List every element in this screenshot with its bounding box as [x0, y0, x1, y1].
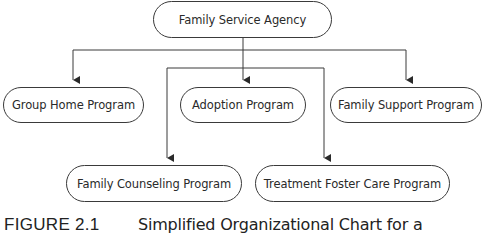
figure-label: FIGURE 2.1 [4, 215, 100, 235]
node-label: Family Support Program [338, 98, 474, 112]
node-label: Family Service Agency [179, 13, 306, 27]
node-label: Family Counseling Program [77, 177, 231, 191]
node-label: Group Home Program [12, 98, 135, 112]
node-label: Treatment Foster Care Program [264, 177, 441, 191]
node-family-counseling-program: Family Counseling Program [66, 165, 242, 202]
node-treatment-foster-care-program: Treatment Foster Care Program [255, 165, 450, 202]
org-chart: Family Service Agency Group Home Program… [0, 0, 484, 236]
node-label: Adoption Program [192, 98, 294, 112]
node-group-home-program: Group Home Program [3, 87, 144, 123]
node-adoption-program: Adoption Program [180, 87, 306, 123]
figure-caption: Simplified Organizational Chart for a [138, 215, 423, 234]
node-family-service-agency: Family Service Agency [153, 1, 332, 38]
node-family-support-program: Family Support Program [330, 87, 482, 123]
